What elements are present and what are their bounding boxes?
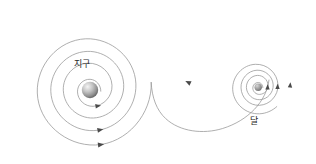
moon-arrow-inner-icon bbox=[265, 84, 270, 89]
earth-label: 지구 bbox=[74, 60, 91, 69]
earth-arrow-middle-icon bbox=[97, 127, 104, 133]
moon-arrow-outer-icon bbox=[288, 82, 293, 88]
moon-sphere-icon bbox=[255, 84, 262, 91]
earth-sphere-icon bbox=[82, 82, 98, 98]
moon-body-group bbox=[255, 84, 262, 91]
moon-arrow-middle-icon bbox=[275, 84, 280, 89]
spiral-orbit-diagram: 지구 달 bbox=[0, 0, 316, 164]
earth-arrow-outer-icon bbox=[98, 142, 105, 148]
earth-arrow-inner-icon bbox=[95, 103, 101, 108]
moon-label: 달 bbox=[250, 117, 258, 126]
connector-arrow-icon bbox=[184, 79, 191, 86]
diagram-canvas bbox=[0, 0, 316, 164]
earth-body-group bbox=[82, 82, 98, 98]
